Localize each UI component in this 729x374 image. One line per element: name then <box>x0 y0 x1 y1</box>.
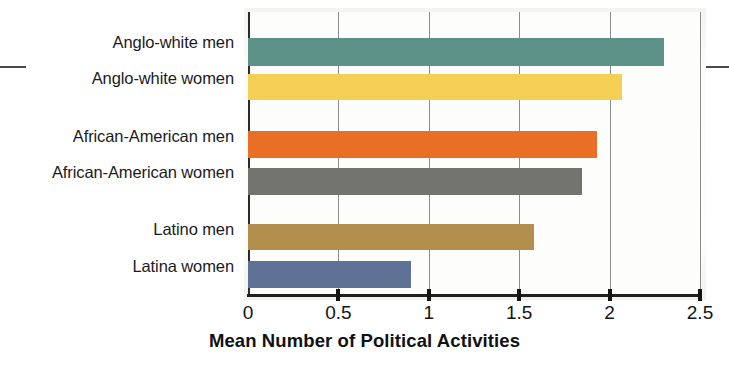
x-tick-1.5 <box>517 289 521 301</box>
x-tick-label-0.5: 0.5 <box>325 302 351 324</box>
x-tick-1 <box>427 289 431 301</box>
bar-latina-women <box>248 261 411 288</box>
chart-figure: Anglo-white men Anglo-white women Africa… <box>0 0 729 374</box>
x-axis-line <box>247 294 702 297</box>
y-axis-category-labels: Anglo-white men Anglo-white women Africa… <box>8 0 242 300</box>
plot-area <box>248 12 700 295</box>
x-tick-0.5 <box>336 289 340 301</box>
y-label-anglo-white-women: Anglo-white women <box>92 70 234 87</box>
x-tick-2 <box>608 289 612 301</box>
bar-african-american-women <box>248 168 582 195</box>
y-label-latina-women: Latina women <box>132 258 234 275</box>
x-tick-label-2.5: 2.5 <box>687 302 713 324</box>
x-tick-label-1.5: 1.5 <box>506 302 532 324</box>
bars <box>248 12 700 295</box>
x-tick-label-1: 1 <box>424 302 435 324</box>
y-label-african-american-women: African-American women <box>52 164 234 181</box>
y-label-anglo-white-men: Anglo-white men <box>113 34 234 51</box>
bar-african-american-men <box>248 131 597 158</box>
bar-anglo-white-women <box>248 74 622 100</box>
bar-latino-men <box>248 224 534 250</box>
page-crop-mark-right <box>703 66 729 68</box>
y-label-latino-men: Latino men <box>153 221 234 238</box>
x-tick-label-0: 0 <box>243 302 254 324</box>
x-tick-2.5 <box>698 289 702 301</box>
y-label-african-american-men: African-American men <box>73 128 234 145</box>
gridline-2.5 <box>700 12 701 295</box>
x-tick-label-2: 2 <box>604 302 615 324</box>
x-axis-title: Mean Number of Political Activities <box>0 330 729 352</box>
bar-anglo-white-men <box>248 38 664 66</box>
